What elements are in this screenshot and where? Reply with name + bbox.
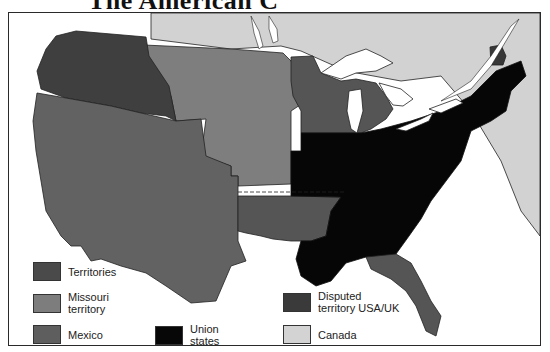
legend-disputed-line2: territory USA/UK	[318, 302, 399, 314]
legend-union-line1: Union	[190, 323, 219, 335]
legend-label-territories: Territories	[68, 266, 116, 278]
legend-swatch-disputed	[283, 293, 311, 312]
legend-label-disputed: Disputed territory USA/UK	[318, 290, 399, 314]
legend-mexico: Mexico	[33, 325, 103, 344]
legend-swatch-territories	[33, 262, 61, 281]
region-territories-arkansas	[238, 196, 341, 241]
legend-swatch-union-states	[155, 326, 183, 345]
legend-label-mexico: Mexico	[68, 329, 103, 341]
legend-label-canada: Canada	[318, 329, 357, 341]
legend-missouri-line1: Missouri	[68, 291, 109, 303]
legend-disputed-line1: Disputed	[318, 290, 361, 302]
legend-missouri-line2: territory	[68, 303, 105, 315]
legend-swatch-mexico	[33, 325, 61, 344]
legend-missouri-territory: Missouri territory	[33, 291, 109, 315]
legend-label-union-states: Union states	[190, 323, 219, 347]
legend-territories: Territories	[33, 262, 116, 281]
legend-canada: Canada	[283, 325, 357, 344]
legend-label-missouri-territory: Missouri territory	[68, 291, 109, 315]
legend-union-line2: states	[190, 335, 219, 347]
legend-disputed: Disputed territory USA/UK	[283, 290, 399, 314]
legend-union-states: Union states	[155, 323, 219, 347]
legend-swatch-canada	[283, 325, 311, 344]
legend-swatch-missouri-territory	[33, 294, 61, 313]
